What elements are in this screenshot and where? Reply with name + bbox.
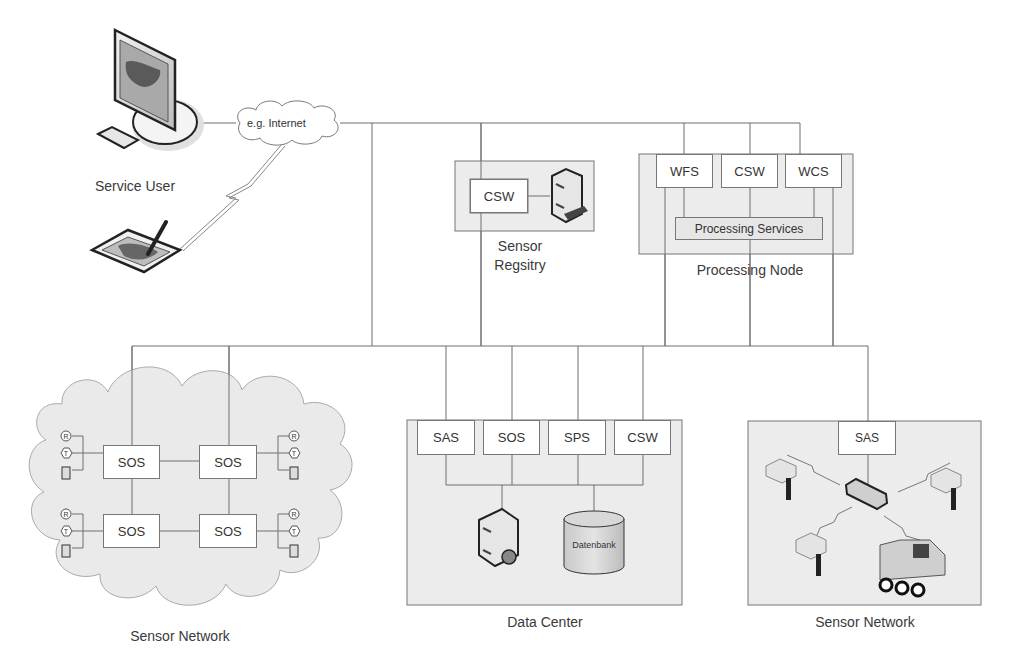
svg-text:R: R: [63, 433, 68, 440]
data-center-server-icon: [479, 509, 518, 566]
sensor-icons-left-top: R T: [61, 431, 72, 479]
desktop-monitor-icon: [115, 30, 204, 151]
sensor-icons-left-bottom: R T: [61, 509, 72, 557]
sensor-registry-panel: [455, 123, 594, 346]
processing-csw-box: CSW: [721, 154, 778, 188]
architecture-diagram: R T R T R T R T: [0, 0, 1010, 663]
svg-text:T: T: [292, 528, 297, 535]
processing-node-label: Processing Node: [660, 262, 840, 278]
sensor-network-sas-box: SAS: [838, 421, 896, 455]
sensor-network-right-label: Sensor Network: [795, 614, 935, 630]
svg-text:T: T: [64, 528, 69, 535]
datacenter-sps-box: SPS: [548, 420, 606, 455]
datacenter-sos-box: SOS: [483, 420, 540, 455]
server-icon: [552, 169, 588, 222]
sos-box-1: SOS: [103, 445, 160, 479]
processing-services-box: Processing Services: [675, 217, 823, 240]
internet-label: e.g. Internet: [247, 117, 306, 129]
service-user-label: Service User: [80, 178, 190, 194]
sos-box-3: SOS: [103, 514, 160, 548]
datacenter-sas-box: SAS: [417, 420, 475, 455]
registry-csw-box: CSW: [470, 179, 528, 213]
processing-wcs-box: WCS: [785, 154, 842, 188]
database-label: Datenbank: [567, 540, 621, 550]
svg-text:R: R: [291, 433, 296, 440]
sos-box-4: SOS: [199, 514, 257, 548]
svg-text:R: R: [291, 511, 296, 518]
processing-wfs-box: WFS: [656, 154, 713, 188]
svg-text:R: R: [63, 511, 68, 518]
svg-text:T: T: [292, 450, 297, 457]
sensor-icons-right-bottom: R T: [289, 509, 300, 557]
svg-text:T: T: [64, 450, 69, 457]
sensor-registry-label-1: Sensor: [470, 238, 570, 254]
sensor-registry-label-2: Regsitry: [470, 257, 570, 273]
sos-box-2: SOS: [199, 445, 257, 479]
data-center-label: Data Center: [485, 614, 605, 630]
wireless-link: [180, 144, 285, 251]
sensor-network-cloud: [29, 367, 352, 605]
sensor-icons-right-top: R T: [289, 431, 300, 479]
sensor-network-left-label: Sensor Network: [110, 628, 250, 644]
tablet-pen-icon: [92, 222, 180, 272]
datacenter-csw-box: CSW: [614, 420, 671, 455]
keyboard-icon: [98, 127, 138, 148]
